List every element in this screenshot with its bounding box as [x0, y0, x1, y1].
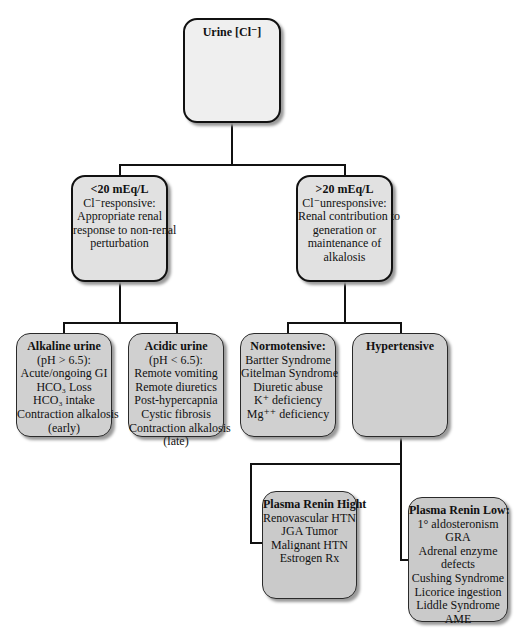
node-line: perturbation: [73, 237, 166, 251]
node-line: (early): [17, 422, 111, 436]
node-line: GRA: [409, 531, 507, 545]
node-line: Contraction alkalosis: [129, 422, 223, 436]
node-line: Cushing Syndrome: [409, 572, 507, 586]
node-line: K⁺ deficiency: [241, 394, 335, 408]
node-title: Plasma Renin Low:: [409, 504, 507, 518]
connector-responsive-bar: [63, 322, 178, 324]
node-line: maintenance of: [298, 237, 391, 251]
node-line: Gitelman Syndrome: [241, 367, 335, 381]
node-title: >20 mEq/L: [298, 183, 391, 197]
node-line: JGA Tumor: [263, 525, 356, 539]
node-line: Renovascular HTN: [263, 512, 356, 526]
node-line: HCO₃ Loss: [17, 381, 111, 395]
node-line: Malignant HTN: [263, 539, 356, 553]
connector-unresponsive-down: [344, 281, 346, 324]
node-line: 1° aldosteronism: [409, 518, 507, 532]
node-line: Licorice ingestion: [409, 586, 507, 600]
node-line: (pH > 6.5):: [17, 354, 111, 368]
node-line: (pH < 6.5):: [129, 354, 223, 368]
node-line: alkalosis: [298, 251, 391, 265]
node-title: <20 mEq/L: [73, 183, 166, 197]
node-line: (late): [129, 435, 223, 449]
node-line: Remote diuretics: [129, 381, 223, 395]
node-line: response to non-renal: [73, 224, 166, 238]
node-line: Appropriate renal: [73, 210, 166, 224]
node-acidic-urine: Acidic urine (pH < 6.5): Remote vomiting…: [128, 333, 224, 437]
node-line: Estrogen Rx: [263, 552, 356, 566]
node-line: Remote vomiting: [129, 367, 223, 381]
node-title: Alkaline urine: [17, 340, 111, 354]
node-line: Renal contribution to: [298, 210, 391, 224]
node-line: Diuretic abuse: [241, 381, 335, 395]
node-chloride-unresponsive: >20 mEq/L Cl⁻unresponsive: Renal contrib…: [296, 175, 393, 282]
node-line: Liddle Syndrome: [409, 599, 507, 613]
node-line: Cystic fibrosis: [129, 408, 223, 422]
node-title: Acidic urine: [129, 340, 223, 354]
node-plasma-renin-high: Plasma Renin Hight Renovascular HTN JGA …: [262, 491, 357, 599]
node-line: defects: [409, 558, 507, 572]
node-line: Adrenal enzyme: [409, 545, 507, 559]
connector-hypertensive-down: [400, 436, 402, 561]
node-hypertensive: Hypertensive: [352, 333, 448, 437]
connector-responsive-down: [119, 281, 121, 324]
node-title: Urine [Cl⁻]: [185, 26, 279, 40]
node-title: Plasma Renin Hight: [263, 498, 356, 512]
node-line: Post-hypercapnia: [129, 394, 223, 408]
connector-root-down: [231, 122, 233, 166]
node-line: Bartter Syndrome: [241, 354, 335, 368]
node-line: generation or: [298, 224, 391, 238]
node-chloride-responsive: <20 mEq/L Cl⁻responsive: Appropriate ren…: [71, 175, 168, 282]
node-line: Mg⁺⁺ deficiency: [241, 408, 335, 422]
node-title: Normotensive:: [241, 340, 335, 354]
node-line: Cl⁻responsive:: [73, 197, 166, 211]
connector-hypertensive-bar: [250, 463, 402, 465]
connector-level2-bar: [119, 164, 346, 166]
connector-unresponsive-bar: [287, 322, 402, 324]
node-line: HCO₃ intake: [17, 394, 111, 408]
node-line: AME: [409, 613, 507, 627]
node-plasma-renin-low: Plasma Renin Low: 1° aldosteronism GRA A…: [408, 497, 508, 622]
connector-renin-high-drop: [250, 463, 252, 544]
node-normotensive: Normotensive: Bartter Syndrome Gitelman …: [240, 333, 336, 437]
node-title: Hypertensive: [353, 340, 447, 354]
node-line: Cl⁻unresponsive:: [298, 197, 391, 211]
node-alkaline-urine: Alkaline urine (pH > 6.5): Acute/ongoing…: [16, 333, 112, 437]
node-line: Contraction alkalosis: [17, 408, 111, 422]
node-urine-chloride: Urine [Cl⁻]: [183, 18, 281, 123]
node-line: Acute/ongoing GI: [17, 367, 111, 381]
